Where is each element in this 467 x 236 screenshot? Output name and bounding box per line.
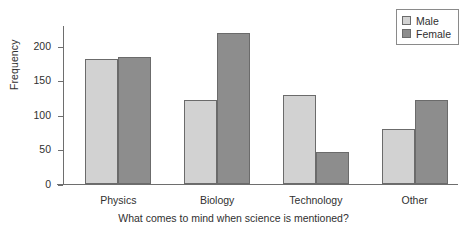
x-category-label-biology: Biology: [200, 194, 234, 206]
y-tick-0: [58, 185, 63, 186]
bar-physics-male: [85, 59, 118, 184]
x-axis-line: [57, 184, 458, 185]
y-tick-200: [58, 47, 63, 48]
bar-biology-female: [217, 33, 250, 184]
legend-item-male: Male: [402, 14, 451, 27]
bar-other-male: [382, 129, 415, 184]
legend-swatch-female-icon: [402, 29, 411, 38]
x-category-label-other: Other: [401, 194, 427, 206]
legend-label-male: Male: [416, 15, 439, 27]
y-axis-line: [63, 26, 64, 185]
y-tick-150: [58, 81, 63, 82]
legend-label-female: Female: [416, 28, 451, 40]
legend-swatch-male-icon: [402, 16, 411, 25]
y-tick-label-200: 200: [11, 40, 51, 52]
y-tick-label-100: 100: [11, 109, 51, 121]
bar-other-female: [415, 100, 448, 184]
bar-biology-male: [184, 100, 217, 184]
y-tick-50: [58, 150, 63, 151]
bar-physics-female: [118, 57, 151, 184]
bar-technology-female: [316, 152, 349, 184]
y-tick-label-50: 50: [11, 143, 51, 155]
bar-technology-male: [283, 95, 316, 184]
legend-item-female: Female: [402, 27, 451, 40]
y-tick-label-0: 0: [11, 178, 51, 190]
plot-area: 050100150200 PhysicsBiologyTechnologyOth…: [63, 26, 458, 185]
x-category-label-physics: Physics: [100, 194, 136, 206]
legend: Male Female: [396, 9, 459, 45]
bar-chart: Frequency 050100150200 PhysicsBiologyTec…: [0, 0, 467, 236]
y-tick-label-150: 150: [11, 74, 51, 86]
x-category-label-technology: Technology: [289, 194, 342, 206]
y-tick-100: [58, 116, 63, 117]
x-axis-title: What comes to mind when science is menti…: [0, 212, 467, 224]
